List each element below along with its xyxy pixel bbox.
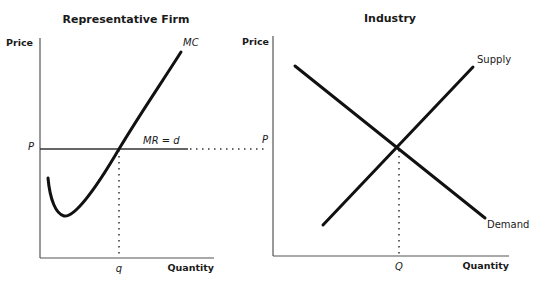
mr-label: MR = d bbox=[143, 135, 180, 146]
industry-price-tick: P bbox=[262, 134, 269, 145]
firm-title: Representative Firm bbox=[63, 13, 190, 26]
supply-curve bbox=[323, 67, 473, 225]
demand-label: Demand bbox=[487, 219, 529, 230]
demand-curve bbox=[295, 66, 485, 218]
industry-quantity-tick: Q bbox=[395, 261, 403, 272]
supply-label: Supply bbox=[477, 54, 511, 65]
firm-price-tick: P bbox=[28, 141, 35, 152]
firm-x-axis-label: Quantity bbox=[167, 262, 214, 273]
mc-label: MC bbox=[183, 37, 199, 48]
firm-y-axis-label: Price bbox=[6, 37, 33, 48]
firm-quantity-tick: q bbox=[116, 263, 122, 274]
perfect-competition-figure: Representative Firm Price Quantity MR = … bbox=[0, 0, 535, 290]
industry-y-axis-label: Price bbox=[242, 36, 269, 47]
industry-panel: Industry Price Quantity P Q Demand Suppl… bbox=[242, 12, 529, 272]
firm-panel: Representative Firm Price Quantity MR = … bbox=[6, 13, 264, 274]
industry-x-axis-label: Quantity bbox=[462, 260, 509, 271]
industry-title: Industry bbox=[364, 12, 416, 25]
